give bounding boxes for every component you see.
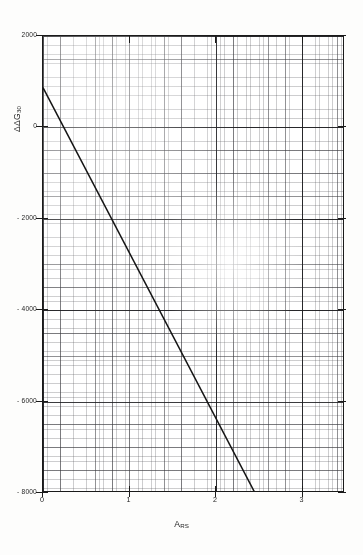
y-axis-title-main: ΔΔG — [12, 113, 22, 132]
x-tick-label: 0 — [30, 495, 54, 504]
x-tick-mark-top — [42, 35, 43, 43]
y-tick-mark-right — [338, 492, 346, 493]
y-tick-label: - 8000 — [0, 488, 37, 495]
x-tick-mark-top — [302, 35, 303, 43]
y-tick-mark-right — [338, 309, 346, 310]
y-tick-mark — [36, 401, 48, 402]
y-axis-title-subscript: 30 — [15, 106, 22, 113]
chart-figure: 20000- 2000- 4000- 6000- 8000 0123 ΔΔG30… — [0, 0, 363, 555]
x-tick-mark-top — [215, 35, 216, 43]
y-tick-mark-right — [338, 401, 346, 402]
data-series-layer — [43, 36, 344, 492]
y-tick-label: - 6000 — [0, 397, 37, 404]
y-tick-label: - 2000 — [0, 214, 37, 221]
y-tick-mark-right — [338, 218, 346, 219]
y-tick-mark — [36, 218, 48, 219]
x-axis-title-subscript: RS — [180, 522, 189, 529]
y-tick-mark — [36, 126, 48, 127]
x-tick-mark-top — [129, 35, 130, 43]
x-tick-label: 1 — [117, 495, 141, 504]
y-tick-mark-right — [338, 126, 346, 127]
plot-area — [42, 35, 344, 492]
y-tick-label: - 4000 — [0, 305, 37, 312]
x-tick-label: 3 — [290, 495, 314, 504]
series-group — [43, 88, 255, 492]
y-axis-title: ΔΔG30 — [12, 106, 22, 132]
x-axis-title: ARS — [0, 519, 363, 529]
y-tick-label: 2000 — [0, 31, 37, 38]
x-tick-label: 2 — [203, 495, 227, 504]
y-tick-mark-right — [338, 35, 346, 36]
y-tick-mark — [36, 309, 48, 310]
data-line — [43, 88, 255, 492]
